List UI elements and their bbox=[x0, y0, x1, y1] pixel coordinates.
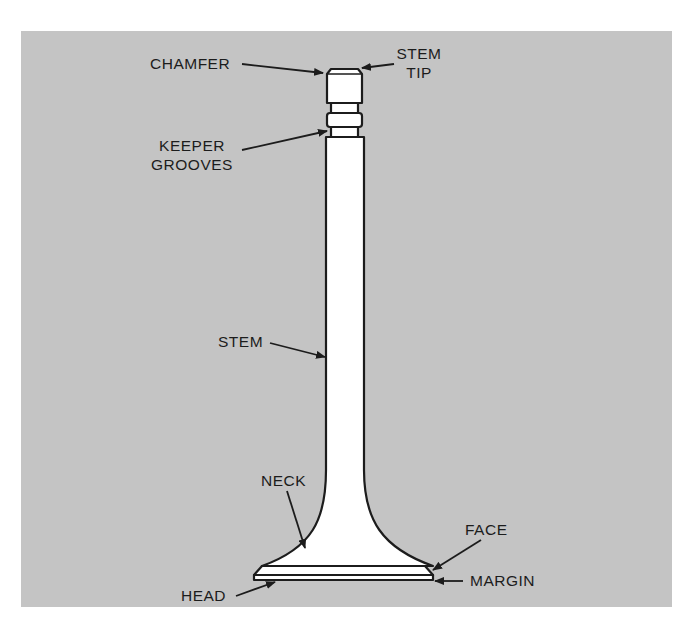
label-margin: MARGIN bbox=[470, 571, 535, 590]
valve-margin bbox=[254, 575, 433, 580]
valve-diagram bbox=[0, 0, 687, 632]
valve-body bbox=[262, 137, 433, 566]
valve-drawing bbox=[254, 69, 433, 580]
keeper-groove-upper bbox=[331, 103, 358, 113]
label-chamfer: CHAMFER bbox=[150, 54, 230, 73]
chamfer-arrow bbox=[242, 64, 323, 73]
stem-tip-arrow bbox=[362, 64, 394, 68]
label-stem-tip: STEM TIP bbox=[396, 44, 442, 82]
label-head: HEAD bbox=[181, 586, 226, 605]
label-stem-tip-line1: STEM bbox=[396, 44, 442, 63]
label-keeper-grooves: KEEPER GROOVES bbox=[144, 136, 240, 174]
label-stem: STEM bbox=[218, 332, 263, 351]
head-arrow bbox=[236, 582, 275, 596]
face-arrow bbox=[433, 540, 481, 570]
keeper-grooves-arrow bbox=[242, 131, 327, 150]
label-keeper-grooves-line2: GROOVES bbox=[144, 155, 240, 174]
stem-arrow bbox=[270, 343, 325, 357]
label-stem-tip-line2: TIP bbox=[396, 63, 442, 82]
neck-arrow bbox=[287, 491, 305, 548]
keeper-collar bbox=[327, 113, 362, 127]
label-face: FACE bbox=[465, 520, 507, 539]
label-neck: NECK bbox=[261, 471, 306, 490]
label-keeper-grooves-line1: KEEPER bbox=[144, 136, 240, 155]
valve-face bbox=[254, 566, 433, 575]
keeper-groove-lower bbox=[331, 127, 358, 137]
